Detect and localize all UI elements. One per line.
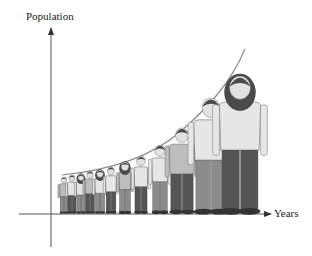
person-figure (116, 161, 133, 214)
person-figure (131, 156, 150, 214)
population-growth-diagram: Population Years (0, 0, 312, 256)
y-axis-label: Population (26, 10, 74, 22)
x-axis-label: Years (274, 207, 299, 219)
diagram-canvas (0, 0, 312, 256)
